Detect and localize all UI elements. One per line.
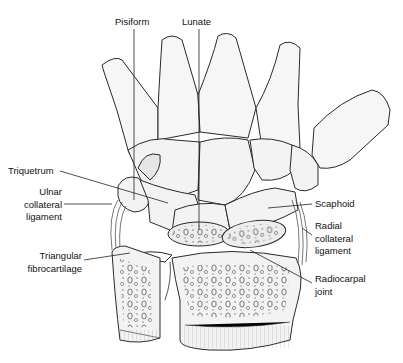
label-line: ligament bbox=[315, 245, 353, 258]
wrist-illustration bbox=[0, 0, 403, 363]
label-triangular-fibrocartilage: Triangular fibrocartilage bbox=[2, 250, 82, 275]
label-scaphoid: Scaphoid bbox=[315, 198, 355, 211]
label-line: collateral bbox=[2, 199, 62, 212]
label-ulnar-collateral-ligament: Ulnar collateral ligament bbox=[2, 186, 62, 224]
label-pisiform: Pisiform bbox=[115, 16, 149, 29]
label-line: Radiocarpal bbox=[315, 273, 366, 286]
wrist-anatomy-figure: Pisiform Lunate Triquetrum Ulnar collate… bbox=[0, 0, 403, 363]
label-radial-collateral-ligament: Radial collateral ligament bbox=[315, 220, 353, 258]
label-line: ligament bbox=[2, 211, 62, 224]
label-line: collateral bbox=[315, 233, 353, 246]
label-line: Radial bbox=[315, 220, 353, 233]
label-triquetrum: Triquetrum bbox=[8, 165, 54, 178]
label-line: joint bbox=[315, 286, 366, 299]
label-line: Ulnar bbox=[2, 186, 62, 199]
label-line: Triangular bbox=[2, 250, 82, 263]
label-lunate: Lunate bbox=[182, 16, 211, 29]
ulna bbox=[112, 246, 160, 342]
label-line: fibrocartilage bbox=[2, 263, 82, 276]
label-radiocarpal-joint: Radiocarpal joint bbox=[315, 273, 366, 298]
